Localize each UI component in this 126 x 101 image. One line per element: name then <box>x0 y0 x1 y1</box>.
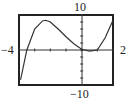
graph-window <box>0 0 126 101</box>
